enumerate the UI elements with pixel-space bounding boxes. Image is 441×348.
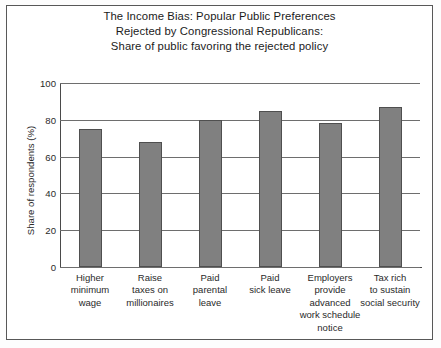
x-axis-category-label-line: to sustain	[353, 284, 427, 296]
bar	[139, 142, 162, 267]
bar	[199, 120, 222, 267]
gridline-100	[60, 83, 420, 84]
chart-title-line-3: Share of public favoring the rejected po…	[6, 39, 433, 54]
gridline-40	[60, 193, 420, 194]
gridline-20	[60, 230, 420, 231]
y-tick-label-0: 0	[22, 262, 56, 273]
chart-title-line-2: Rejected by Congressional Republicans:	[6, 24, 433, 39]
plot-area	[60, 83, 420, 267]
bar	[379, 107, 402, 267]
chart-title-line-1: The Income Bias: Popular Public Preferen…	[6, 9, 433, 24]
gridline-80	[60, 120, 420, 121]
chart-title: The Income Bias: Popular Public Preferen…	[6, 9, 433, 55]
y-tick-label-100: 100	[22, 78, 56, 89]
bar	[319, 123, 342, 267]
x-axis-category-label-line: leave	[173, 297, 247, 309]
gridline-60	[60, 157, 420, 158]
chart-canvas: The Income Bias: Popular Public Preferen…	[0, 0, 441, 348]
x-axis-category-label: Tax richto sustainsocial security	[353, 272, 427, 309]
x-axis-category-label-line: work schedule	[293, 309, 367, 321]
bar	[259, 111, 282, 267]
x-axis-category-label-line: notice	[293, 322, 367, 334]
y-axis-title: Share of respondents (%)	[25, 101, 36, 261]
x-axis-category-label-line: Tax rich	[353, 272, 427, 284]
x-axis-category-label-line: social security	[353, 297, 427, 309]
bar	[79, 129, 102, 267]
gridline-0	[60, 267, 420, 268]
